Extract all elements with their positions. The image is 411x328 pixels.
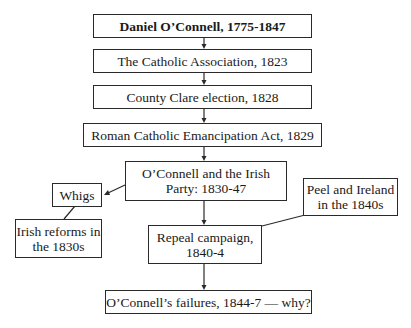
node-label-line-2: 1840-4	[186, 245, 224, 260]
node-label-line-1: Repeal campaign,	[157, 230, 254, 245]
node-label: The Catholic Association, 1823	[117, 54, 287, 69]
node-peel-ireland: Peel and Ireland in the 1840s	[303, 178, 398, 216]
node-label: Whigs	[59, 188, 94, 203]
node-label-line-2: in the 1840s	[318, 197, 384, 212]
node-label: Daniel O’Connell, 1775-1847	[119, 19, 285, 34]
node-emancipation-act: Roman Catholic Emancipation Act, 1829	[83, 123, 322, 147]
node-irish-reforms: Irish reforms in the 1830s	[15, 219, 102, 258]
node-label-line-1: O’Connell and the Irish	[142, 166, 270, 181]
edge-whigs-reforms	[64, 206, 75, 219]
node-label-line-1: Peel and Ireland	[307, 182, 395, 197]
node-whigs: Whigs	[52, 183, 102, 207]
node-oconnell-failures: O’Connell’s failures, 1844-7 — why?	[105, 290, 312, 314]
node-irish-party: O’Connell and the Irish Party: 1830-47	[125, 161, 287, 201]
node-label-line-1: Irish reforms in	[17, 224, 101, 239]
node-label: O’Connell’s failures, 1844-7 — why?	[106, 295, 310, 310]
node-catholic-association: The Catholic Association, 1823	[93, 49, 312, 73]
edge-peel-repeal	[262, 215, 305, 226]
node-daniel-oconnell: Daniel O’Connell, 1775-1847	[93, 14, 312, 38]
node-county-clare-election: County Clare election, 1828	[93, 85, 312, 109]
edge-party-whigs	[108, 185, 125, 193]
node-repeal-campaign: Repeal campaign, 1840-4	[148, 225, 262, 264]
node-label-line-2: Party: 1830-47	[166, 181, 247, 196]
node-label: Roman Catholic Emancipation Act, 1829	[91, 128, 313, 143]
node-label: County Clare election, 1828	[126, 90, 278, 105]
node-label-line-2: the 1830s	[32, 239, 84, 254]
